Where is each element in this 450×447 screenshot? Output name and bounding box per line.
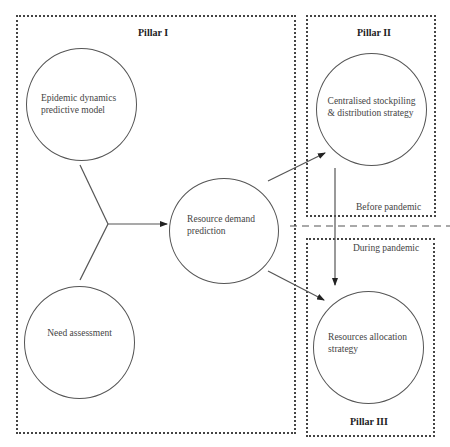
node-need-assessment: Need assessment <box>24 286 135 399</box>
edge-need-to-junction <box>80 224 108 280</box>
node-epidemic-dynamics: Epidemic dynamics predictive model <box>26 48 137 161</box>
node-centralised-stockpiling-label: Centralised stockpiling & distribution s… <box>328 96 416 120</box>
node-resource-demand: Resource demand prediction <box>169 178 279 284</box>
phase-before-pandemic: Before pandemic <box>356 202 421 212</box>
node-resources-allocation-label: Resources allocation strategy <box>328 332 407 356</box>
node-resources-allocation: Resources allocation strategy <box>313 291 424 404</box>
node-resource-demand-label: Resource demand prediction <box>187 214 255 238</box>
node-centralised-stockpiling: Centralised stockpiling & distribution s… <box>316 53 427 166</box>
node-need-assessment-label: Need assessment <box>47 328 112 340</box>
edge-demand-to-allocation <box>268 271 324 300</box>
phase-during-pandemic: During pandemic <box>353 243 419 253</box>
node-epidemic-dynamics-label: Epidemic dynamics predictive model <box>41 93 116 117</box>
edge-demand-to-stockpile <box>268 153 325 181</box>
edge-epidemic-to-junction <box>80 165 108 224</box>
